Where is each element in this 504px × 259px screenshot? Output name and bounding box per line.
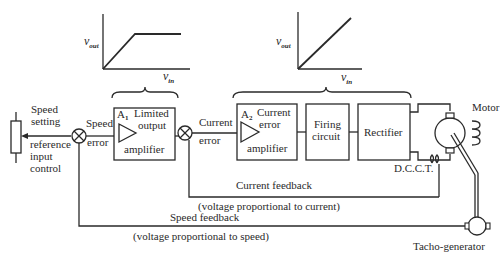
label-speed-feedback: Speed feedback (170, 211, 240, 223)
a2-current-error-amplifier: A2 Current error amplifier (237, 104, 297, 160)
svg-text:error: error (259, 118, 281, 130)
label-motor: Motor (472, 101, 500, 113)
label-control: control (30, 162, 61, 174)
label-speed-feedback-note: (voltage proportional to speed) (133, 230, 269, 243)
linear-graph: vout vin (233, 12, 411, 98)
svg-text:Limited: Limited (134, 107, 169, 119)
label-tacho: Tacho-generator (413, 240, 485, 252)
label-speed: Speed (31, 103, 58, 115)
svg-text:circuit: circuit (312, 130, 340, 142)
label-speed-error-1: Speed (86, 117, 113, 129)
brace-a1 (112, 87, 178, 98)
label-setting: setting (31, 115, 61, 127)
label-reference: reference (30, 138, 71, 150)
svg-text:Rectifier: Rectifier (364, 126, 403, 138)
block-diagram: vout vin vout vin Speed setting referenc… (0, 0, 504, 259)
tacho-generator (465, 217, 490, 235)
svg-text:amplifier: amplifier (124, 143, 165, 155)
label-current-error-2: error (199, 134, 221, 146)
firing-circuit: Firing circuit (306, 104, 349, 160)
brace-a2 (233, 87, 411, 98)
label-speed-error-2: error (87, 136, 109, 148)
wiper-arrow-icon (21, 133, 28, 139)
limited-output-graph: vout vin (84, 14, 190, 98)
speed-summing-junction (72, 129, 86, 143)
current-summing-junction (178, 126, 192, 140)
svg-text:amplifier: amplifier (247, 142, 288, 154)
rectifier: Rectifier (358, 104, 410, 160)
graph2-xlabel: vin (341, 70, 352, 86)
label-dcct: D.C.C.T. (394, 162, 434, 174)
graph1-xlabel: vin (163, 69, 174, 85)
svg-text:Firing: Firing (314, 118, 341, 130)
field-winding-icon (472, 121, 480, 145)
svg-text:Current: Current (257, 106, 291, 118)
graph2-ylabel: vout (276, 34, 292, 50)
label-current-feedback: Current feedback (236, 179, 313, 191)
a1-limited-output-amplifier: A1 Limited output amplifier (114, 107, 175, 160)
label-input: input (30, 150, 53, 162)
graph1-ylabel: vout (84, 34, 100, 50)
svg-text:output: output (138, 119, 166, 131)
label-current-error-1: Current (199, 116, 233, 128)
